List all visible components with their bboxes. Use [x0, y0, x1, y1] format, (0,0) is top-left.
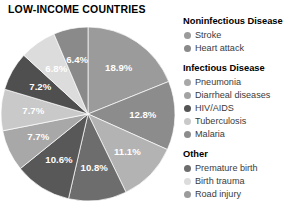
legend-color-swatch-icon: [184, 131, 191, 138]
legend-item[interactable]: Stroke: [183, 29, 290, 42]
legend-group: Infectious DiseasePneumoniaDiarrheal dis…: [183, 62, 290, 141]
pie-slice-label: 18.9%: [105, 62, 133, 73]
pie-slice-label: 7.2%: [29, 81, 51, 92]
legend: Noninfectious DiseaseStrokeHeart attackI…: [183, 15, 290, 201]
pie-slice-label: 12.8%: [129, 109, 157, 120]
pie-slice-label: 10.6%: [45, 154, 73, 165]
legend-color-swatch-icon: [184, 45, 191, 52]
legend-color-swatch-icon: [184, 105, 191, 112]
legend-group: OtherPremature birthBirth traumaRoad inj…: [183, 148, 290, 201]
legend-item[interactable]: Tuberculosis: [183, 115, 290, 128]
legend-item-label: Malaria: [195, 128, 225, 141]
pie-chart-svg: 18.9%12.8%11.1%10.8%10.6%7.7%7.7%7.2%6.8…: [0, 20, 180, 221]
legend-group-heading: Other: [183, 148, 290, 160]
legend-item[interactable]: HIV/AIDS: [183, 102, 290, 115]
legend-item-label: HIV/AIDS: [195, 102, 234, 115]
legend-group-heading: Infectious Disease: [183, 62, 290, 74]
legend-color-swatch-icon: [184, 165, 191, 172]
legend-item[interactable]: Diarrheal diseases: [183, 89, 290, 102]
legend-color-swatch-icon: [184, 32, 191, 39]
legend-color-swatch-icon: [184, 178, 191, 185]
pie-slice-label: 11.1%: [114, 146, 141, 157]
legend-item-label: Birth trauma: [195, 175, 245, 188]
legend-item-label: Pneumonia: [195, 76, 241, 89]
legend-item-label: Road injury: [195, 188, 241, 201]
pie-slice-label: 7.7%: [27, 131, 49, 142]
legend-group: Noninfectious DiseaseStrokeHeart attack: [183, 15, 290, 55]
pie-chart-area: 18.9%12.8%11.1%10.8%10.6%7.7%7.7%7.2%6.8…: [0, 20, 180, 221]
pie-slice-label: 7.7%: [22, 105, 44, 116]
legend-item[interactable]: Premature birth: [183, 162, 290, 175]
legend-item-label: Heart attack: [195, 42, 244, 55]
legend-group-heading: Noninfectious Disease: [183, 15, 290, 27]
legend-item[interactable]: Pneumonia: [183, 76, 290, 89]
pie-chart-figure: LOW-INCOME COUNTRIES 18.9%12.8%11.1%10.8…: [0, 0, 290, 221]
legend-item[interactable]: Heart attack: [183, 42, 290, 55]
legend-color-swatch-icon: [184, 79, 191, 86]
legend-color-swatch-icon: [184, 92, 191, 99]
legend-color-swatch-icon: [184, 118, 191, 125]
legend-item-label: Stroke: [195, 29, 221, 42]
legend-item-label: Premature birth: [195, 162, 258, 175]
legend-item-label: Diarrheal diseases: [195, 89, 270, 102]
legend-item[interactable]: Road injury: [183, 188, 290, 201]
legend-item[interactable]: Malaria: [183, 128, 290, 141]
chart-title: LOW-INCOME COUNTRIES: [8, 3, 146, 15]
legend-color-swatch-icon: [184, 191, 191, 198]
pie-slice-label: 10.8%: [81, 162, 109, 173]
legend-item[interactable]: Birth trauma: [183, 175, 290, 188]
pie-slice-label: 6.8%: [45, 63, 67, 74]
legend-groups: Noninfectious DiseaseStrokeHeart attackI…: [183, 15, 290, 201]
legend-item-label: Tuberculosis: [195, 115, 246, 128]
pie-slice-label: 6.4%: [66, 54, 88, 65]
